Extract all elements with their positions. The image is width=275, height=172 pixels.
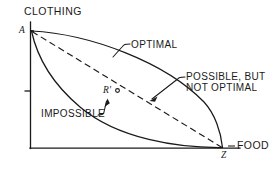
annotation-impossible: IMPOSSIBLE [41,108,105,119]
annotation-possible-not-optimal-line1: POSSIBLE, BUT [186,71,266,82]
annotation-possible-not-optimal: POSSIBLE, BUTNOT OPTIMAL [186,71,266,93]
point-label-z: Z [221,150,226,161]
point-r-marker [116,89,120,93]
ppf-figure: CLOTHING FOOD OPTIMAL POSSIBLE, BUTNOT O… [0,0,275,172]
x-axis-title: FOOD [237,140,269,152]
annotation-possible-not-optimal-line2: NOT OPTIMAL [186,82,257,93]
annotation-optimal: OPTIMAL [131,39,177,50]
point-label-a: A [19,25,25,36]
possible-not-optimal-leader-line [152,77,185,99]
impossible-arrowhead [105,99,110,108]
optimal-leader-line [113,44,130,57]
point-label-r: R' [103,85,111,96]
y-axis-title: CLOTHING [24,6,82,18]
